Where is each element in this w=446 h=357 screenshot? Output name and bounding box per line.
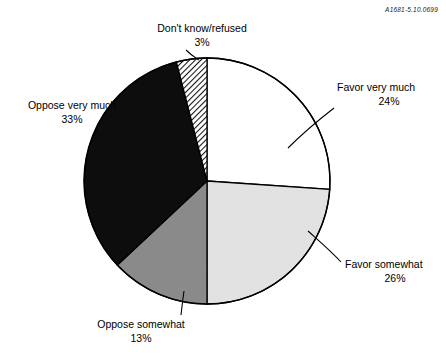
slice-label-value: 33% — [6, 113, 138, 127]
pie-chart-figure: A1681-5.10.0699 — [0, 0, 446, 357]
slice-label-name: Oppose very much — [6, 99, 138, 113]
slice-label-favor-very-much: Favor very much 24% — [337, 81, 441, 108]
leader-line-favor-somewhat — [308, 231, 341, 262]
slice-label-name: Don't know/refused — [107, 22, 297, 36]
pie-slice-favor-somewhat — [207, 181, 330, 304]
slice-label-favor-somewhat: Favor somewhat 26% — [345, 258, 445, 285]
slice-label-value: 13% — [57, 332, 225, 346]
slice-label-value: 26% — [345, 272, 445, 286]
slice-label-oppose-somewhat: Oppose somewhat 13% — [57, 318, 225, 345]
slice-label-value: 3% — [107, 36, 297, 50]
slice-label-name: Favor somewhat — [345, 258, 445, 272]
slice-label-value: 24% — [337, 95, 441, 109]
pie-slice-favor-very-much — [207, 58, 330, 189]
slice-label-name: Favor very much — [337, 81, 441, 95]
slice-label-oppose-very-much: Oppose very much 33% — [6, 99, 138, 126]
slice-label-dont-know-refused: Don't know/refused 3% — [107, 22, 297, 49]
slice-label-name: Oppose somewhat — [57, 318, 225, 332]
pie-chart-graphic — [0, 0, 446, 357]
